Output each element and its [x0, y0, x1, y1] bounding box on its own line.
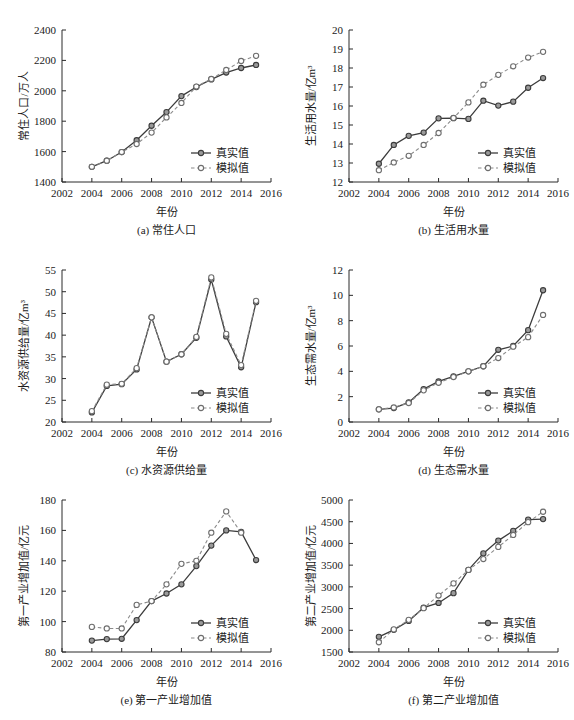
legend-b: 真实值模拟值 — [478, 146, 536, 174]
axis-lines — [62, 30, 271, 182]
y-tick-label: 1600 — [34, 146, 57, 158]
data-point-sim — [540, 509, 545, 514]
data-point-sim — [436, 380, 441, 385]
legend-marker-sim — [198, 165, 203, 170]
data-point-sim — [496, 355, 501, 360]
x-tick-label: 2004 — [81, 657, 104, 669]
data-point-real — [119, 636, 124, 641]
y-tick-label: 18 — [332, 62, 344, 74]
chart-f: 1500200025003000350040004500500020022004… — [287, 478, 574, 718]
y-tick-label: 2200 — [34, 54, 57, 66]
x-tick-label: 2006 — [398, 187, 421, 199]
data-point-sim — [451, 581, 456, 586]
x-tick-label: 2004 — [81, 187, 104, 199]
data-point-real — [253, 62, 258, 67]
chart-d: 0246810122002200420062008201020122014201… — [287, 248, 574, 488]
data-point-real — [164, 109, 169, 114]
data-point-real — [436, 116, 441, 121]
y-tick-label: 20 — [332, 24, 344, 36]
y-tick-label: 19 — [332, 43, 344, 55]
legend-label-real: 真实值 — [503, 616, 536, 629]
legend-label-real: 真实值 — [216, 386, 249, 399]
data-point-real — [164, 591, 169, 596]
data-point-real — [179, 94, 184, 99]
legend-marker-real — [485, 390, 490, 395]
data-point-real — [391, 142, 396, 147]
data-point-sim — [164, 582, 169, 587]
legend-label-sim: 模拟值 — [216, 161, 249, 174]
legend-e: 真实值模拟值 — [191, 616, 249, 644]
x-tick-label: 2014 — [517, 657, 540, 669]
legend-c: 真实值模拟值 — [191, 386, 249, 414]
data-point-real — [376, 634, 381, 639]
x-tick-label: 2004 — [368, 187, 391, 199]
x-tick-label: 2012 — [487, 187, 509, 199]
data-point-sim — [194, 558, 199, 563]
data-point-real — [253, 557, 258, 562]
x-tick-label: 2002 — [51, 187, 73, 199]
x-axis-title: 年份 — [443, 205, 465, 218]
data-point-real — [540, 288, 545, 293]
subplot-e: 8010012014016018020022004200620082010201… — [0, 478, 287, 718]
data-point-sim — [496, 72, 501, 77]
y-tick-label: 12 — [332, 264, 343, 276]
legend-marker-sim — [198, 635, 203, 640]
data-point-real — [209, 543, 214, 548]
x-tick-label: 2006 — [111, 187, 134, 199]
legend-marker-real — [485, 150, 490, 155]
legend-label-sim: 模拟值 — [503, 401, 536, 414]
data-point-sim — [376, 407, 381, 412]
x-tick-label: 2004 — [368, 657, 391, 669]
y-axis-title: 生态需水量/亿m³ — [304, 305, 317, 387]
x-tick-label: 2016 — [260, 187, 283, 199]
x-tick-label: 2010 — [170, 187, 193, 199]
data-point-sim — [239, 363, 244, 368]
y-tick-label: 14 — [332, 138, 344, 150]
legend-label-sim: 模拟值 — [503, 631, 536, 644]
data-point-sim — [466, 369, 471, 374]
data-point-sim — [179, 100, 184, 105]
y-tick-label: 2000 — [34, 85, 57, 97]
data-point-real — [421, 130, 426, 135]
y-axis-title: 第二产业增加值/亿元 — [304, 525, 317, 627]
subplot-caption: (b) 生活用水量 — [418, 223, 489, 237]
data-point-sim — [481, 364, 486, 369]
data-point-sim — [89, 624, 94, 629]
legend-label-sim: 模拟值 — [216, 631, 249, 644]
y-tick-label: 2400 — [34, 24, 57, 36]
x-tick-label: 2016 — [260, 427, 283, 439]
data-point-sim — [391, 160, 396, 165]
data-point-sim — [481, 82, 486, 87]
data-point-sim — [391, 405, 396, 410]
data-point-sim — [253, 53, 258, 58]
data-point-sim — [511, 344, 516, 349]
data-point-sim — [134, 602, 139, 607]
data-point-real — [466, 116, 471, 121]
x-tick-label: 2012 — [487, 427, 509, 439]
data-point-real — [481, 98, 486, 103]
x-tick-label: 2008 — [428, 187, 451, 199]
data-point-sim — [451, 374, 456, 379]
x-tick-label: 2010 — [170, 657, 193, 669]
data-point-sim — [406, 153, 411, 158]
data-point-real — [540, 517, 545, 522]
legend-marker-sim — [485, 635, 490, 640]
x-axis-title: 年份 — [156, 675, 178, 688]
data-point-real — [89, 638, 94, 643]
data-point-real — [526, 328, 531, 333]
y-tick-label: 10 — [332, 289, 344, 301]
y-tick-label: 4500 — [321, 516, 344, 528]
data-point-sim — [224, 67, 229, 72]
x-tick-label: 2004 — [81, 427, 104, 439]
data-point-sim — [436, 593, 441, 598]
y-tick-label: 15 — [332, 119, 344, 131]
x-axis-title: 年份 — [156, 445, 178, 458]
y-tick-label: 4000 — [321, 537, 344, 549]
x-tick-label: 2010 — [457, 427, 480, 439]
data-point-real — [540, 75, 545, 80]
y-tick-label: 2 — [338, 391, 344, 403]
data-point-sim — [526, 55, 531, 60]
x-tick-label: 2016 — [547, 187, 570, 199]
y-tick-label: 16 — [332, 100, 344, 112]
x-tick-label: 2002 — [51, 657, 73, 669]
